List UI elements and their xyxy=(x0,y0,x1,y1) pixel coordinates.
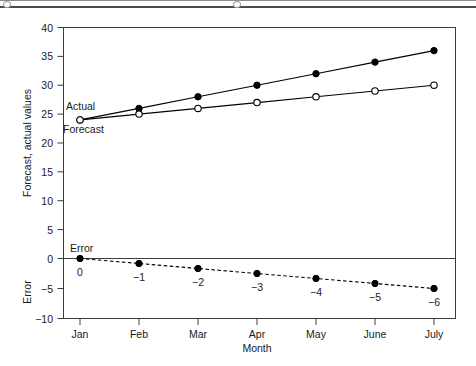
marker-actual-june xyxy=(372,59,378,65)
y-tick-label-0: 0 xyxy=(47,253,53,265)
data-label-error-mar: −2 xyxy=(192,276,204,288)
marker-forecast-feb xyxy=(136,111,142,117)
series-markers-actual xyxy=(77,47,437,123)
x-tick-label-mar: Mar xyxy=(189,328,208,340)
series-label-error: Error xyxy=(70,242,94,254)
upper-panel-frame xyxy=(64,28,456,259)
y-tick-label-10: 10 xyxy=(41,195,53,207)
y-tick-label-neg10: −10 xyxy=(35,313,53,325)
y-tick-label-5: 5 xyxy=(47,224,53,236)
marker-forecast-july xyxy=(431,82,437,88)
data-label-error-july: −6 xyxy=(428,296,440,308)
y-axis-ticks-lower xyxy=(58,289,64,319)
marker-actual-july xyxy=(431,47,437,53)
series-label-actual: Actual xyxy=(66,100,95,112)
x-tick-label-may: May xyxy=(306,328,327,340)
x-axis-title: Month xyxy=(242,342,271,354)
x-tick-label-feb: Feb xyxy=(130,328,148,340)
marker-error-june xyxy=(372,280,378,286)
figure-container: 40 35 30 25 20 15 10 5 0 −5 −10 Jan Feb … xyxy=(0,0,476,366)
y-axis-ticks-upper xyxy=(58,28,64,259)
marker-forecast-mar xyxy=(195,105,201,111)
y-tick-label-40: 40 xyxy=(41,22,53,34)
marker-error-apr xyxy=(254,270,260,276)
marker-error-may xyxy=(313,275,319,281)
y-tick-label-25: 25 xyxy=(41,108,53,120)
y-tick-label-35: 35 xyxy=(41,50,53,62)
data-label-error-jan: 0 xyxy=(77,266,83,278)
y-axis-title-lower: Error xyxy=(21,280,33,304)
y-tick-label-30: 30 xyxy=(41,79,53,91)
forecast-error-chart: 40 35 30 25 20 15 10 5 0 −5 −10 Jan Feb … xyxy=(0,0,476,366)
x-tick-label-july: July xyxy=(425,328,444,340)
data-label-error-june: −5 xyxy=(369,291,381,303)
marker-forecast-june xyxy=(372,88,378,94)
marker-error-july xyxy=(431,285,437,291)
x-tick-label-jan: Jan xyxy=(72,328,89,340)
data-label-error-apr: −3 xyxy=(251,281,263,293)
marker-forecast-apr xyxy=(254,99,260,105)
x-tick-label-june: June xyxy=(364,328,387,340)
marker-forecast-may xyxy=(313,94,319,100)
data-label-error-may: −4 xyxy=(310,286,322,298)
x-axis-ticks xyxy=(80,319,434,326)
marker-error-mar xyxy=(195,265,201,271)
y-axis-title-upper: Forecast, actual values xyxy=(21,89,33,197)
y-tick-label-15: 15 xyxy=(41,166,53,178)
marker-actual-mar xyxy=(195,94,201,100)
y-tick-label-20: 20 xyxy=(41,137,53,149)
x-tick-label-apr: Apr xyxy=(249,328,266,340)
marker-error-feb xyxy=(136,260,142,266)
y-tick-label-neg5: −5 xyxy=(41,283,53,295)
marker-error-jan xyxy=(77,255,83,261)
marker-actual-apr xyxy=(254,82,260,88)
marker-actual-may xyxy=(313,71,319,77)
data-label-error-feb: −1 xyxy=(133,271,145,283)
series-label-forecast: Forecast xyxy=(63,123,104,135)
